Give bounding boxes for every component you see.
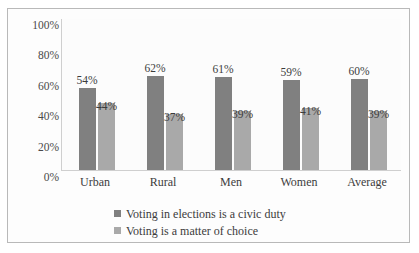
- plot-area: 54%44%62%37%61%39%59%41%60%39%: [61, 19, 401, 171]
- x-axis: UrbanRuralMenWomenAverage: [61, 175, 401, 193]
- bar-group: 60%39%: [334, 18, 402, 170]
- bar-value-label: 41%: [300, 105, 334, 117]
- bar-pair: 61%39%: [198, 18, 266, 170]
- bar-pair: 60%39%: [334, 18, 402, 170]
- x-axis-label-average: Average: [333, 175, 401, 189]
- x-axis-label-men: Men: [197, 175, 265, 189]
- bar-group: 59%41%: [266, 18, 334, 170]
- chart-legend: Voting in elections is a civic dutyVotin…: [114, 205, 394, 239]
- legend-label: Voting is a matter of choice: [126, 224, 258, 238]
- legend-swatch-icon: [114, 227, 121, 234]
- bar-average-series1: [351, 79, 368, 170]
- bar-value-label: 54%: [72, 74, 102, 86]
- bar-value-label: 60%: [344, 65, 374, 77]
- bar-group: 61%39%: [198, 18, 266, 170]
- bar-value-label: 39%: [232, 108, 266, 120]
- bar-group: 62%37%: [130, 18, 198, 170]
- legend-item[interactable]: Voting is a matter of choice: [114, 222, 394, 239]
- y-axis-tick: 100%: [16, 19, 59, 31]
- y-axis-tick: 40%: [16, 110, 59, 122]
- x-axis-label-rural: Rural: [129, 175, 197, 189]
- bar-urban-series2: [98, 103, 115, 170]
- y-axis: 100%80%60%40%20%0%: [16, 12, 59, 178]
- bar-men-series1: [215, 77, 232, 170]
- bar-value-label: 62%: [140, 62, 170, 74]
- y-axis-tick: 60%: [16, 80, 59, 92]
- chart-frame: 100%80%60%40%20%0% 54%44%62%37%61%39%59%…: [7, 8, 410, 243]
- bar-pair: 59%41%: [266, 18, 334, 170]
- legend-swatch-icon: [114, 210, 121, 217]
- bar-value-label: 44%: [96, 100, 130, 112]
- bar-value-label: 59%: [276, 66, 306, 78]
- x-axis-label-women: Women: [265, 175, 333, 189]
- y-axis-tick: 0%: [16, 171, 59, 183]
- legend-item[interactable]: Voting in elections is a civic duty: [114, 205, 394, 222]
- bar-women-series1: [283, 80, 300, 170]
- bar-value-label: 37%: [164, 111, 198, 123]
- bar-value-label: 39%: [368, 108, 402, 120]
- x-axis-label-urban: Urban: [61, 175, 129, 189]
- bar-pair: 54%44%: [62, 18, 130, 170]
- bar-pair: 62%37%: [130, 18, 198, 170]
- y-axis-tick: 20%: [16, 141, 59, 153]
- bar-women-series2: [302, 108, 319, 170]
- bar-urban-series1: [79, 88, 96, 170]
- bar-value-label: 61%: [208, 63, 238, 75]
- y-axis-tick: 80%: [16, 49, 59, 61]
- bar-group: 54%44%: [62, 18, 130, 170]
- legend-label: Voting in elections is a civic duty: [126, 207, 286, 221]
- bar-rural-series1: [147, 76, 164, 170]
